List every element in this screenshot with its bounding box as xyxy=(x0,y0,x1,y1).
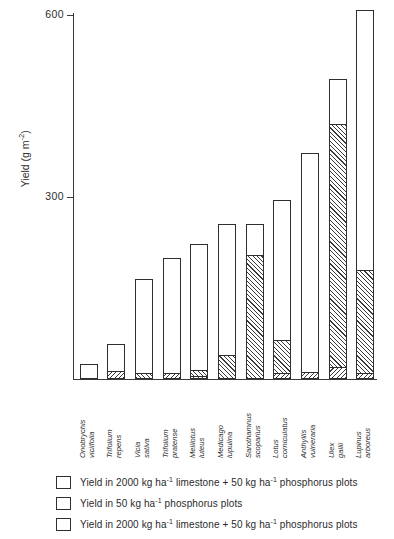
bar-trifolium-pratense xyxy=(163,258,181,379)
x-label-genus: Melilotus xyxy=(189,382,197,458)
bar-segment-limestone-phosphorus xyxy=(107,371,125,379)
x-label-species: sativa xyxy=(143,382,151,458)
x-label-genus: Lotus xyxy=(272,382,280,458)
x-label-sarothamnus-scoparius: Sarothamnusscoparius xyxy=(245,382,259,458)
x-label-species: luteus xyxy=(198,382,206,458)
yield-bar-chart-figure: 300600 Yield (g m-2) Onobrychisviciifoli… xyxy=(0,0,394,539)
x-label-medicago-lupulina: Medicagolupulina xyxy=(217,382,231,458)
y-axis-title: Yield (g m-2) xyxy=(17,104,31,214)
y-tick-label-300: 300 xyxy=(28,190,64,202)
x-label-lupinus-arboreus: Lupinusarboreus xyxy=(355,382,369,458)
legend-label-2: Yield in 2000 kg ha-1 limestone + 50 kg … xyxy=(80,518,358,530)
bar-lotus-corniculatus xyxy=(273,200,291,379)
x-label-species: gallii xyxy=(336,382,344,458)
bar-segment-limestone-phosphorus xyxy=(273,373,291,379)
legend-item-1: Yield in 50 kg ha-1 phosphorus plots xyxy=(56,495,242,512)
x-label-species: arboreus xyxy=(364,382,372,458)
legend-text-a: Yield in 50 kg ha xyxy=(80,499,155,510)
bar-melilotus-luteus xyxy=(190,244,208,379)
x-label-genus: Anthyllis xyxy=(300,382,308,458)
bar-group xyxy=(73,0,377,380)
bar-segment-phosphorus xyxy=(218,355,236,379)
y-tick-label-600: 600 xyxy=(28,8,64,20)
bar-vicia-sativa xyxy=(135,279,153,379)
bar-lupinus-arboreus xyxy=(356,10,374,379)
x-label-lotus-corniculatus: Lotuscorniculatus xyxy=(272,382,286,458)
bar-segment-limestone-phosphorus xyxy=(356,373,374,379)
bar-trifolium-repens xyxy=(107,344,125,379)
bar-segment-phosphorus xyxy=(246,255,264,379)
x-label-species: corniculatus xyxy=(281,382,289,458)
x-label-species: vulneraria xyxy=(309,382,317,458)
x-label-genus: Medicago xyxy=(217,382,225,458)
legend-text-c: phosphorus plots xyxy=(277,520,358,531)
bar-sarothamnus-scoparius xyxy=(246,224,264,379)
bar-segment-phosphorus xyxy=(329,124,347,379)
x-label-genus: Lupinus xyxy=(355,382,363,458)
legend-swatch-forward-hatch xyxy=(56,497,71,510)
x-label-species: repens xyxy=(115,382,123,458)
x-label-trifolium-pratense: Trifoliumpratense xyxy=(162,382,176,458)
legend-label-0: Yield in 2000 kg ha-1 limestone + 50 kg … xyxy=(80,476,358,488)
x-label-onobrychis-viciifolia: Onobrychisviciifolia xyxy=(79,382,93,458)
x-label-species: viciifolia xyxy=(87,382,95,458)
x-label-melilotus-luteus: Melilotusluteus xyxy=(189,382,203,458)
x-label-genus: Ulex xyxy=(328,382,336,458)
legend-text-a: Yield in 2000 kg ha xyxy=(80,478,167,489)
legend-item-2: Yield in 2000 kg ha-1 limestone + 50 kg … xyxy=(56,516,358,533)
bar-anthyllis-vulneraria xyxy=(301,153,319,379)
plot-area: 300600 Yield (g m-2) Onobrychisviciifoli… xyxy=(0,0,394,480)
x-label-species: pratense xyxy=(170,382,178,458)
y-axis-title-base: Yield (g m xyxy=(19,140,31,187)
x-label-species: lupulina xyxy=(226,382,234,458)
bar-segment-phosphorus xyxy=(356,270,374,379)
bar-segment-limestone-phosphorus xyxy=(301,372,319,379)
x-axis-labels: OnobrychisviciifoliaTrifoliumrepensVicia… xyxy=(73,384,377,464)
y-axis-title-close: ) xyxy=(19,130,31,134)
x-label-genus: Trifolium xyxy=(106,382,114,458)
x-label-genus: Vicia xyxy=(134,382,142,458)
bar-segment-limestone-phosphorus xyxy=(190,376,208,379)
bar-segment-limestone-phosphorus xyxy=(163,373,181,379)
x-label-genus: Sarothamnus xyxy=(245,382,253,458)
x-label-trifolium-repens: Trifoliumrepens xyxy=(106,382,120,458)
legend-label-1: Yield in 50 kg ha-1 phosphorus plots xyxy=(80,497,242,509)
legend-text-c: phosphorus plots xyxy=(277,478,358,489)
bar-medicago-lupulina xyxy=(218,224,236,379)
legend-text-b: limestone + 50 kg ha xyxy=(173,478,270,489)
bar-segment-limestone-phosphorus xyxy=(329,367,347,379)
legend: Yield in 2000 kg ha-1 limestone + 50 kg … xyxy=(56,474,392,536)
bar-segment-phosphorus xyxy=(135,373,153,379)
x-label-genus: Trifolium xyxy=(162,382,170,458)
bar-ulex-gallii xyxy=(329,79,347,379)
legend-item-0: Yield in 2000 kg ha-1 limestone + 50 kg … xyxy=(56,474,358,491)
x-label-genus: Onobrychis xyxy=(79,382,87,458)
bar-onobrychis-viciifolia xyxy=(80,364,98,379)
legend-swatch-open xyxy=(56,476,71,489)
legend-text-a: Yield in 2000 kg ha xyxy=(80,520,167,531)
y-axis-title-exponent: -2 xyxy=(17,134,26,141)
legend-text-b: limestone + 50 kg ha xyxy=(173,520,270,531)
x-label-anthyllis-vulneraria: Anthyllisvulneraria xyxy=(300,382,314,458)
x-label-species: scoparius xyxy=(253,382,261,458)
legend-swatch-back-hatch xyxy=(56,518,71,531)
x-label-ulex-gallii: Ulexgallii xyxy=(328,382,342,458)
legend-text-b: phosphorus plots xyxy=(162,499,243,510)
x-label-vicia-sativa: Viciasativa xyxy=(134,382,148,458)
